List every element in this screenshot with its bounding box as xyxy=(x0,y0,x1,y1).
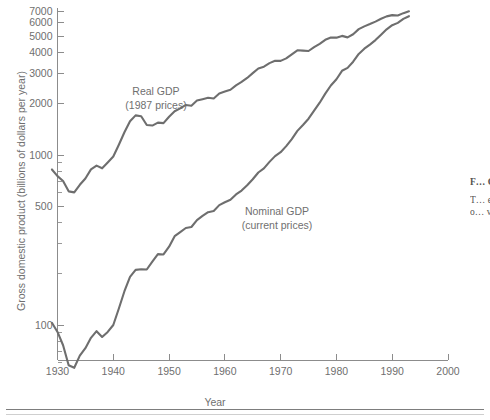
x-axis-title: Year xyxy=(0,396,430,408)
y-tick-label: 100 xyxy=(35,319,53,331)
y-tick-label: 2000 xyxy=(29,97,53,109)
x-tick-label: 1990 xyxy=(381,365,405,377)
y-tick-label: 3000 xyxy=(29,67,53,79)
chart-axes: 1005001000200030004000500060007000193019… xyxy=(29,5,460,377)
x-tick-label: 2000 xyxy=(436,365,460,377)
y-tick-label: 500 xyxy=(35,200,53,212)
annotation-real-line1: Real GDP xyxy=(104,84,208,98)
y-tick-label: 6000 xyxy=(29,16,53,28)
x-tick-label: 1930 xyxy=(46,365,70,377)
x-tick-label: 1950 xyxy=(157,365,181,377)
caption-body: T… e… p… in… in… a… t… o… v… G… U… n… xyxy=(470,194,490,218)
x-tick-label: 1960 xyxy=(213,365,237,377)
y-tick-label: 1000 xyxy=(29,149,53,161)
footer-rule xyxy=(6,409,484,410)
y-tick-label: 5000 xyxy=(29,30,53,42)
caption-heading: F… G… R… P… xyxy=(470,176,490,188)
y-tick-label: 7000 xyxy=(29,5,53,17)
series-annotation-nominal-gdp: Nominal GDP (current prices) xyxy=(222,204,332,232)
x-tick-label: 1970 xyxy=(269,365,293,377)
chart-series xyxy=(52,11,409,368)
footer-rule-secondary xyxy=(6,414,484,415)
y-tick-label: 4000 xyxy=(29,46,53,58)
x-tick-label: 1980 xyxy=(325,365,349,377)
series-annotation-real-gdp: Real GDP (1987 prices) xyxy=(104,84,208,112)
series-line-nominal-gdp xyxy=(52,16,409,368)
y-axis-title: Gross domestic product (billions of doll… xyxy=(15,66,27,316)
annotation-nominal-line2: (current prices) xyxy=(222,218,332,232)
annotation-real-line2: (1987 prices) xyxy=(104,98,208,112)
figure-caption-column: F… G… R… P… T… e… p… in… in… a… t… o… v…… xyxy=(470,176,490,218)
annotation-nominal-line1: Nominal GDP xyxy=(222,204,332,218)
x-tick-label: 1940 xyxy=(102,365,126,377)
figure-root: 1005001000200030004000500060007000193019… xyxy=(0,0,490,420)
